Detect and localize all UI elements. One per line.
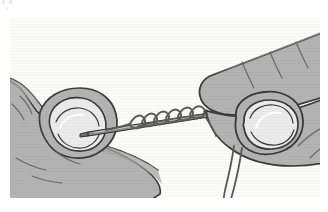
illustration-page: Two hands holding a sewing needle; threa… [0, 0, 328, 212]
artifact-mark [6, 7, 8, 10]
artifact-mark [9, 0, 12, 4]
artifact-mark [2, 0, 5, 4]
line-art-drawing [10, 18, 320, 198]
right-fingernail [243, 100, 298, 149]
left-fingernail [49, 98, 106, 151]
left-nail-plate [49, 98, 106, 151]
illustration-alt-text: Two hands holding a sewing needle; threa… [0, 0, 1, 1]
right-nail-plate [243, 100, 298, 149]
illustration-plate [10, 18, 320, 198]
scan-artifact-marks [2, 0, 16, 11]
